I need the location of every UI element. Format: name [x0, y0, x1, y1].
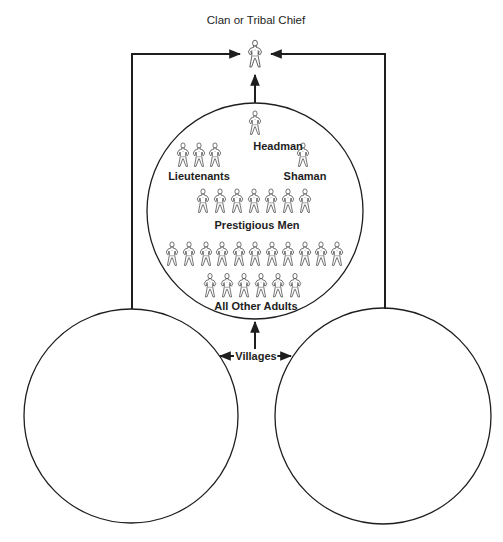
person-icon — [282, 189, 294, 212]
person-icon — [299, 189, 311, 212]
person-icon — [214, 189, 226, 212]
all-other-adults-label: All Other Adults — [214, 300, 297, 312]
person-icon — [221, 273, 233, 296]
villages-label: Villages — [234, 350, 277, 362]
headman-figure-icon — [249, 111, 261, 134]
person-icon — [193, 143, 205, 166]
all-other-adults-row-1 — [166, 242, 343, 265]
headman-label: Headman — [253, 140, 303, 152]
right-village-circle — [275, 308, 491, 524]
person-icon — [248, 189, 260, 212]
person-icon — [204, 273, 216, 296]
person-icon — [183, 242, 195, 265]
person-icon — [177, 143, 189, 166]
person-icon — [315, 242, 327, 265]
person-icon — [197, 189, 209, 212]
person-icon — [331, 242, 343, 265]
kinship-hierarchy-diagram — [0, 0, 503, 542]
person-icon — [238, 273, 250, 296]
person-icon — [209, 143, 221, 166]
chief-label: Clan or Tribal Chief — [207, 14, 305, 26]
left-village-circle — [24, 309, 238, 523]
prestigious-men-figures — [197, 189, 311, 212]
prestigious-men-label: Prestigious Men — [215, 219, 300, 231]
lieutenant-figures — [177, 143, 221, 166]
person-icon — [299, 242, 311, 265]
person-icon — [231, 189, 243, 212]
person-icon — [255, 273, 267, 296]
person-icon — [249, 242, 261, 265]
center-village-circle — [147, 103, 363, 319]
lieutenants-label: Lieutenants — [168, 170, 230, 182]
all-other-adults-row-2 — [204, 273, 301, 296]
shaman-label: Shaman — [284, 170, 327, 182]
person-icon — [282, 242, 294, 265]
person-icon — [233, 242, 245, 265]
person-icon — [200, 242, 212, 265]
person-icon — [265, 189, 277, 212]
person-icon — [272, 273, 284, 296]
person-icon — [216, 242, 228, 265]
person-icon — [266, 242, 278, 265]
person-icon — [289, 273, 301, 296]
chief-figure-icon — [248, 40, 261, 67]
person-icon — [166, 242, 178, 265]
